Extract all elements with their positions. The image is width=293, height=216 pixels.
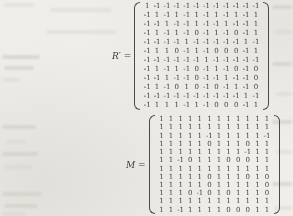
matrix-row: 1-1-1-1-1-1-1-1-1-1-1-1 xyxy=(142,2,261,11)
matrix-cell: -1 xyxy=(142,29,152,38)
matrix-cell: -1 xyxy=(142,20,152,29)
matrix-cell: -1 xyxy=(221,11,231,20)
matrix-row: 11-1011100011 xyxy=(157,156,272,164)
matrix-cell: -1 xyxy=(231,2,241,11)
matrix-cell: -1 xyxy=(192,38,202,47)
matrix-row: 111111111111 xyxy=(157,123,272,131)
matrix-row: -11-11-10-11-10-11 xyxy=(142,29,261,38)
matrix-cell: 0 xyxy=(262,189,272,197)
matrix-cell: -1 xyxy=(182,65,192,74)
bleed-artifact xyxy=(272,62,292,66)
matrix-cell: 1 xyxy=(211,11,221,20)
matrix-cell: 0 xyxy=(192,74,202,83)
bleed-artifact xyxy=(4,204,38,208)
matrix-r-prime-body: 1-1-1-1-1-1-1-1-1-1-1-1-11-11-11-11-11-1… xyxy=(140,2,263,110)
matrix-cell: 1 xyxy=(166,173,176,181)
matrix-cell: 1 xyxy=(157,173,167,181)
matrix-cell: 1 xyxy=(224,148,234,156)
matrix-row: -1-11-1-10-1-11-1-10 xyxy=(142,74,261,83)
matrix-cell: -1 xyxy=(202,11,212,20)
matrix-cell: 1 xyxy=(205,197,215,205)
matrix-cell: -1 xyxy=(192,56,202,65)
matrix-cell: -1 xyxy=(172,56,182,65)
matrix-cell: 0 xyxy=(262,181,272,189)
matrix-cell: -1 xyxy=(241,74,251,83)
matrix-cell: 1 xyxy=(214,148,224,156)
matrix-cell: 1 xyxy=(243,165,253,173)
matrix-cell: 0 xyxy=(231,65,241,74)
matrix-cell: 1 xyxy=(224,132,234,140)
matrix-cell: 1 xyxy=(233,173,243,181)
matrix-cell: -1 xyxy=(152,20,162,29)
matrix-row: -1110-11-1000-11 xyxy=(142,47,261,56)
matrix-cell: -1 xyxy=(182,20,192,29)
matrix-cell: -1 xyxy=(202,20,212,29)
matrix-cell: 1 xyxy=(195,156,205,164)
matrix-cell: 1 xyxy=(262,115,272,123)
matrix-m-body: 11111111111111111111111111111-111111-111… xyxy=(155,115,274,213)
matrix-cell: -1 xyxy=(251,56,261,65)
matrix-cell: -1 xyxy=(142,65,152,74)
matrix-cell: -1 xyxy=(202,47,212,56)
matrix-cell: 1 xyxy=(205,123,215,131)
matrix-cell: 0 xyxy=(205,181,215,189)
matrix-cell: -1 xyxy=(241,29,251,38)
matrix-cell: 1 xyxy=(243,123,253,131)
matrix-cell: 1 xyxy=(192,101,202,110)
matrix-cell: -1 xyxy=(202,83,212,92)
matrix-cell: 1 xyxy=(231,11,241,20)
bleed-artifact xyxy=(2,125,36,129)
matrix-cell: 1 xyxy=(224,165,234,173)
matrix-cell: -1 xyxy=(241,101,251,110)
matrix-cell: -1 xyxy=(205,132,215,140)
matrix-cell: 0 xyxy=(251,83,261,92)
matrix-cell: 1 xyxy=(253,156,263,164)
matrix-cell: 1 xyxy=(224,197,234,205)
matrix-row: -11-11-10-11-10-10 xyxy=(142,65,261,74)
matrix-cell: 1 xyxy=(142,2,152,11)
matrix-cell: 1 xyxy=(172,29,182,38)
matrix-cell: 1 xyxy=(214,140,224,148)
matrix-cell: 1 xyxy=(195,123,205,131)
bleed-artifact xyxy=(2,212,26,216)
matrix-cell: 1 xyxy=(233,189,243,197)
matrix-cell: 1 xyxy=(185,181,195,189)
matrix-cell: -1 xyxy=(172,74,182,83)
bleed-artifact xyxy=(4,165,32,169)
matrix-cell: 1 xyxy=(214,115,224,123)
matrix-cell: 1 xyxy=(166,148,176,156)
matrix-cell: 1 xyxy=(195,165,205,173)
matrix-cell: 1 xyxy=(221,20,231,29)
matrix-cell: -1 xyxy=(202,2,212,11)
matrix-cell: 1 xyxy=(233,115,243,123)
matrix-cell: -1 xyxy=(211,74,221,83)
matrix-cell: 1 xyxy=(166,206,176,214)
matrix-cell: -1 xyxy=(202,65,212,74)
matrix-cell: -1 xyxy=(142,56,152,65)
bleed-artifact xyxy=(2,192,42,196)
matrix-cell: -1 xyxy=(162,65,172,74)
matrix-cell: -1 xyxy=(142,74,152,83)
matrix-cell: 0 xyxy=(185,189,195,197)
matrix-cell: 1 xyxy=(157,165,167,173)
matrix-cell: 1 xyxy=(214,181,224,189)
matrix-cell: -1 xyxy=(152,74,162,83)
matrix-cell: 1 xyxy=(231,83,241,92)
matrix-cell: 1 xyxy=(166,115,176,123)
matrix-cell: -1 xyxy=(192,2,202,11)
matrix-cell: 1 xyxy=(185,148,195,156)
matrix-cell: -1 xyxy=(152,56,162,65)
matrix-cell: 1 xyxy=(205,165,215,173)
matrix-cell: 1 xyxy=(166,156,176,164)
matrix-cell: 1 xyxy=(262,165,272,173)
matrix-cell: 1 xyxy=(176,132,186,140)
matrix-cell: 0 xyxy=(211,83,221,92)
matrix-m-label: M = xyxy=(126,160,146,170)
matrix-cell: 1 xyxy=(262,123,272,131)
bleed-artifact xyxy=(274,30,292,34)
matrix-cell: 1 xyxy=(195,173,205,181)
matrix-row: 11111-111111-1 xyxy=(157,132,272,140)
matrix-cell: -1 xyxy=(202,101,212,110)
matrix-cell: -1 xyxy=(221,83,231,92)
matrix-cell: 1 xyxy=(185,206,195,214)
